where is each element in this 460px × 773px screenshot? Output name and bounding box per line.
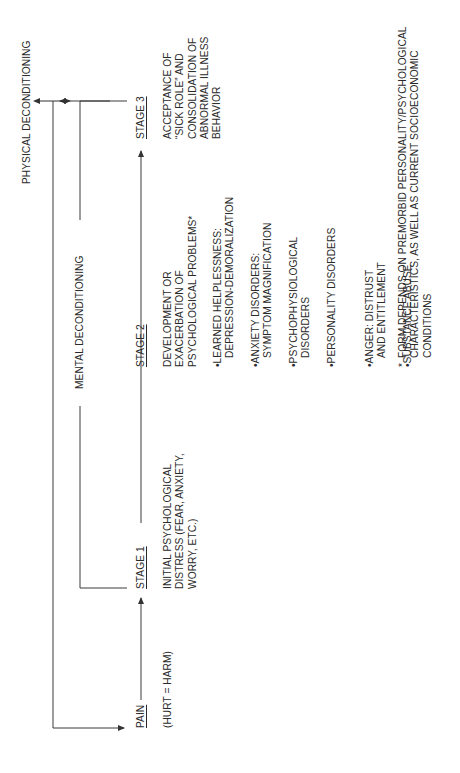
bullet-item: •PSYCHOPHYSIOLOGICAL DISORDERS (288, 197, 326, 367)
footnote: *FORM DEPENDS ON PREMORBID PERSONALITY/P… (397, 27, 434, 367)
stage-pain-label: PAIN (135, 705, 147, 728)
stage-3-label: STAGE 3 (135, 96, 147, 139)
bullet-item: •ANXIETY DISORDERS: SYMPTOM MAGNIFICATIO… (250, 197, 288, 367)
physical-deconditioning-label: PHYSICAL DECONDITIONING (21, 41, 33, 184)
stage-3-description: ACCEPTANCE OF “SICK ROLE” AND CONSOLIDAT… (162, 37, 223, 139)
bidirectional-arrow-icon (33, 91, 73, 113)
stage-1-description: INITIAL PSYCHOLOGICAL DISTRESS (FEAR, AN… (162, 453, 199, 589)
stage-1-label: STAGE 1 (135, 546, 147, 589)
double-arrow (0, 0, 460, 773)
bullet-item: •PERSONALITY DISORDERS (326, 197, 364, 367)
diagram-canvas: PHYSICAL DECONDITIONING MENTAL DECONDITI… (0, 0, 460, 773)
stage-2-description: DEVELOPMENT OR EXACERBATION OF PSYCHOLOG… (162, 216, 199, 367)
stage-2-label: STAGE 2 (135, 324, 147, 367)
bullet-item: •LEARNED HELPLESSNESS: DEPRESSION-DEMORA… (212, 197, 250, 367)
mental-deconditioning-label: MENTAL DECONDITIONING (74, 250, 86, 396)
pain-description: (HURT = HARM) (162, 651, 174, 728)
